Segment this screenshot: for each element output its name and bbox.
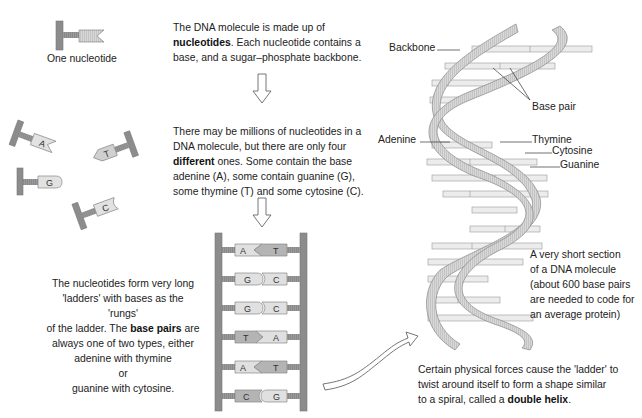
svg-text:T: T <box>273 246 279 256</box>
svg-text:A: A <box>240 246 246 256</box>
intro-paragraph: The DNA molecule is made up of nucleotid… <box>173 20 373 65</box>
single-nucleotide-icon <box>56 21 104 50</box>
svg-text:G: G <box>244 304 251 314</box>
curved-arrow-icon <box>323 332 418 390</box>
section-note: A very short section of a DNA molecule (… <box>530 247 642 322</box>
nucleotide-a-icon: A <box>9 120 58 159</box>
ladder-rung-6: C G <box>222 390 300 402</box>
svg-text:T: T <box>273 363 279 373</box>
ladder-paragraph: The nucleotides form very long 'ladders'… <box>46 276 200 396</box>
double-helix-paragraph: Certain physical forces cause the 'ladde… <box>418 362 642 407</box>
nucleotide-c-icon: C <box>72 190 121 230</box>
svg-text:C: C <box>273 304 280 314</box>
ladder-rung-2: G C <box>222 273 300 285</box>
down-arrow-icon <box>253 74 271 103</box>
term-base-pairs: base pairs <box>130 323 181 334</box>
ladder-rung-1: A T <box>222 244 300 256</box>
nucleotide-g-icon: G <box>17 168 62 195</box>
svg-text:G: G <box>46 178 53 188</box>
four-types-paragraph: There may be millions of nucleotides in … <box>173 124 383 199</box>
nucleotide-t-icon: T <box>89 131 138 170</box>
term-double-helix: double helix <box>508 394 569 405</box>
svg-text:C: C <box>243 392 250 402</box>
one-nucleotide-caption: One nucleotide <box>47 53 117 64</box>
label-cytosine: Cytosine <box>552 145 592 156</box>
svg-text:T: T <box>243 333 249 343</box>
label-base-pair: Base pair <box>532 101 576 112</box>
ladder-rung-4: T A <box>222 331 300 343</box>
label-thymine: Thymine <box>532 134 572 145</box>
label-adenine: Adenine <box>378 134 416 145</box>
svg-text:C: C <box>273 275 280 285</box>
label-guanine: Guanine <box>560 159 599 170</box>
dna-ladder <box>215 233 307 411</box>
svg-text:G: G <box>273 392 280 402</box>
ladder-rung-3: G C <box>222 302 300 314</box>
svg-text:A: A <box>273 333 279 343</box>
ladder-rung-5: A T <box>222 361 300 373</box>
term-nucleotides: nucleotides <box>173 37 231 48</box>
term-different: different <box>173 156 215 167</box>
down-arrow-icon <box>253 198 271 227</box>
svg-text:A: A <box>240 363 246 373</box>
svg-text:G: G <box>244 275 251 285</box>
label-backbone: Backbone <box>389 42 435 53</box>
